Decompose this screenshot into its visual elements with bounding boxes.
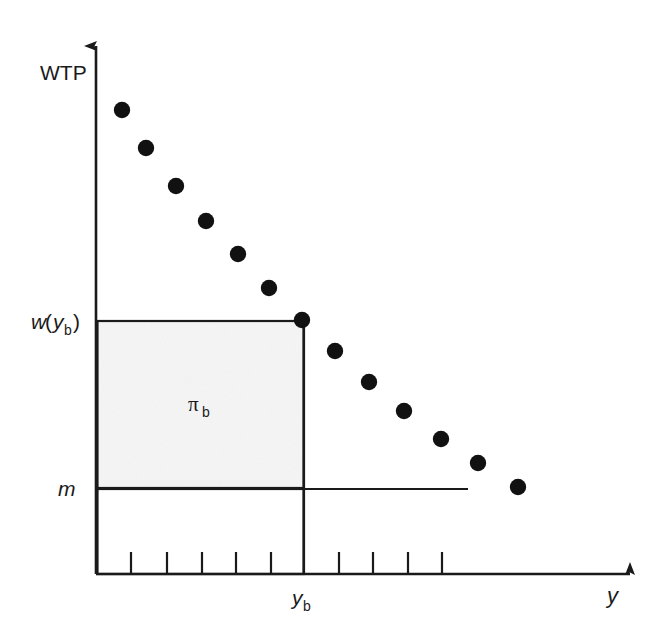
- data-point: [433, 431, 449, 447]
- cost-region-outline: [98, 489, 304, 574]
- w-yb-y: y: [51, 310, 65, 333]
- data-point: [294, 312, 310, 328]
- yb-y: y: [290, 586, 304, 609]
- data-point: [327, 343, 343, 359]
- data-point: [138, 140, 154, 156]
- w-yb-sub: b: [64, 322, 72, 338]
- profit-region-group: [98, 321, 304, 488]
- pi-sub: b: [202, 404, 210, 420]
- w-yb-close-paren: ): [73, 310, 80, 333]
- data-point: [168, 178, 184, 194]
- y-tick-label-m: m: [58, 477, 76, 500]
- y-tick-label-w-yb: w ( y b ): [31, 310, 80, 338]
- profit-region-shading-tint: [98, 321, 304, 488]
- data-point: [230, 246, 246, 262]
- data-point: [396, 403, 412, 419]
- figure-root: WTP y w ( y b ) m y b π b: [0, 0, 671, 636]
- data-point: [114, 102, 130, 118]
- scatter-chart-svg: WTP y w ( y b ) m y b π b: [0, 0, 671, 636]
- w-yb-open-paren: (: [45, 310, 52, 333]
- x-tick-label-yb: y b: [290, 586, 311, 614]
- data-point: [198, 213, 214, 229]
- data-point: [510, 479, 526, 495]
- x-axis-ticks: [131, 552, 442, 574]
- yb-sub: b: [303, 598, 311, 614]
- data-point: [470, 455, 486, 471]
- x-axis-title: y: [605, 583, 620, 608]
- data-point: [261, 280, 277, 296]
- y-axis-title: WTP: [40, 61, 87, 84]
- pi-symbol: π: [188, 392, 199, 416]
- data-point: [361, 374, 377, 390]
